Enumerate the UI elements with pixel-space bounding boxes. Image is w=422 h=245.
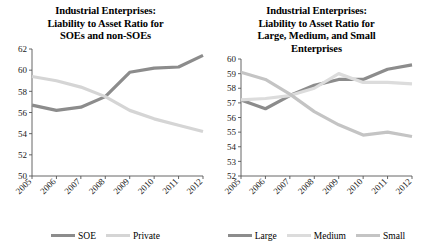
legend-entry-small[interactable]: Small [356, 231, 405, 241]
legend-entry-medium[interactable]: Medium [287, 231, 346, 241]
x-axis-tick-label: 2011 [160, 176, 180, 196]
x-axis-tick-label: 2006 [247, 176, 267, 196]
y-axis-tick-label: 52 [18, 150, 27, 160]
x-axis-tick-label: 2009 [111, 176, 131, 196]
legend-label: Large [255, 231, 277, 241]
x-axis-tick-label: 2008 [296, 176, 316, 196]
legend-entry-large[interactable]: Large [228, 231, 277, 241]
legend-entry-private[interactable]: Private [106, 231, 160, 241]
y-axis-tick-label: 57 [227, 98, 237, 108]
y-axis-tick-label: 62 [18, 44, 27, 54]
x-axis-tick-label: 2008 [87, 176, 107, 196]
legend-label: Medium [314, 231, 346, 241]
x-axis-tick-label: 2010 [345, 176, 365, 196]
chart-panel-large-medium-small: Industrial Enterprises: Liability to Ass… [211, 0, 422, 245]
y-axis-tick-label: 60 [18, 65, 28, 75]
series-line-medium [241, 74, 412, 100]
title-line: Industrial Enterprises: [10, 5, 201, 18]
plot-svg-left: 5052545658606220052006200720082009201020… [0, 43, 211, 218]
title-line: Liability to Asset Ratio for [221, 18, 412, 31]
legend-label: Small [383, 231, 405, 241]
chart-panel-soe-vs-private: Industrial Enterprises: Liability to Ass… [0, 0, 211, 245]
title-line: Industrial Enterprises: [221, 5, 412, 18]
title-line: SOEs and non-SOEs [10, 30, 201, 43]
two-panel-line-chart-figure: Industrial Enterprises: Liability to Ass… [0, 0, 422, 245]
plot-area-right: 5253545556575859602005200620072008200920… [211, 55, 422, 229]
x-axis-tick-label: 2007 [62, 176, 82, 196]
x-axis-tick-label: 2006 [38, 176, 58, 196]
y-axis-tick-label: 55 [227, 128, 237, 138]
legend-label: Private [133, 231, 160, 241]
title-line: Enterprises [221, 43, 412, 56]
legend-swatch-icon [51, 234, 75, 238]
y-axis-tick-label: 59 [227, 69, 237, 79]
y-axis-tick-label: 60 [227, 55, 237, 64]
legend-right: LargeMediumSmall [211, 229, 422, 245]
legend-swatch-icon [228, 234, 252, 238]
y-axis-tick-label: 58 [18, 86, 28, 96]
plot-area-left: 5052545658606220052006200720082009201020… [0, 43, 211, 229]
legend-swatch-icon [287, 234, 311, 238]
y-axis-tick-label: 53 [227, 157, 237, 167]
title-line: Large, Medium, and Small [221, 30, 412, 43]
y-axis-tick-label: 54 [18, 129, 28, 139]
page-title-left: Industrial Enterprises: Liability to Ass… [0, 0, 211, 43]
x-axis-tick-label: 2012 [185, 176, 205, 196]
title-line: Liability to Asset Ratio for [10, 18, 201, 31]
plot-svg-right: 5253545556575859602005200620072008200920… [211, 55, 422, 218]
legend-left: SOEPrivate [0, 229, 211, 245]
x-axis-tick-label: 2009 [320, 176, 340, 196]
x-axis-tick-label: 2005 [223, 176, 243, 196]
legend-label: SOE [78, 231, 96, 241]
legend-entry-soe[interactable]: SOE [51, 231, 96, 241]
y-axis-tick-label: 56 [227, 113, 237, 123]
x-axis-tick-label: 2011 [369, 177, 389, 197]
series-line-large [241, 65, 412, 109]
x-axis-tick-label: 2007 [271, 176, 291, 196]
x-axis-tick-label: 2012 [394, 177, 414, 197]
legend-swatch-icon [356, 234, 380, 238]
legend-swatch-icon [106, 234, 130, 238]
y-axis-tick-label: 56 [18, 107, 28, 117]
page-title-right: Industrial Enterprises: Liability to Ass… [211, 0, 422, 55]
y-axis-tick-label: 54 [227, 142, 237, 152]
x-axis-tick-label: 2005 [14, 176, 34, 196]
x-axis-tick-label: 2010 [136, 176, 156, 196]
y-axis-tick-label: 58 [227, 84, 237, 94]
